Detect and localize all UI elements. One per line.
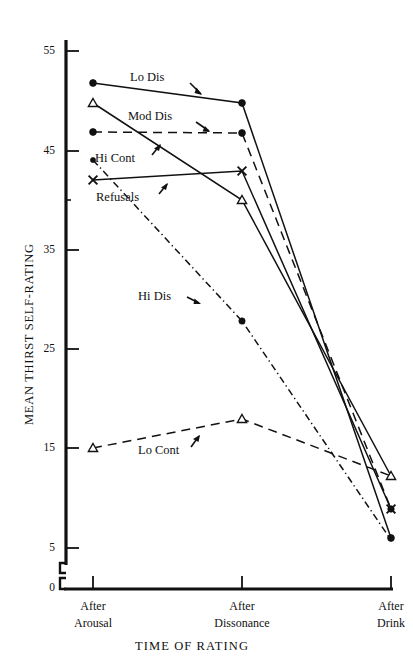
y-tick-label-15: 15 bbox=[30, 442, 55, 454]
series-label-lo-cont: Lo Cont bbox=[138, 444, 179, 457]
x-tick-label-after-arousal-line2: Arousal bbox=[43, 617, 143, 629]
y-axis-title: MEAN THIRST SELF-RATING bbox=[23, 243, 36, 425]
x-tick-label-after-dissonance-line2: Dissonance bbox=[192, 617, 292, 629]
y-tick-label-45: 45 bbox=[30, 145, 55, 157]
leader-hi-dis bbox=[187, 297, 201, 304]
series-label-hi-cont: Hi Cont bbox=[95, 152, 135, 165]
leader-refusals bbox=[159, 183, 168, 194]
series-line-lo-dis bbox=[93, 83, 391, 538]
x-tick-label-after-dissonance-line1: After bbox=[192, 600, 292, 612]
marker-lo-cont-p2 bbox=[237, 415, 246, 423]
x-tick-label-after-drink-line1: After bbox=[341, 600, 413, 612]
series-label-lo-dis: Lo Dis bbox=[130, 71, 164, 84]
chart-plot-area bbox=[0, 0, 413, 671]
marker-lo-dis-p1 bbox=[90, 80, 97, 87]
x-tick-label-after-drink-line2: Drink bbox=[341, 617, 413, 629]
y-tick-label-5: 5 bbox=[30, 542, 55, 554]
y-axis-break-lower bbox=[60, 578, 66, 589]
leader-lo-dis bbox=[190, 83, 202, 95]
leader-hi-cont bbox=[152, 144, 161, 155]
x-axis-title: TIME OF RATING bbox=[135, 640, 249, 653]
marker-hi-dis-p2 bbox=[239, 318, 245, 324]
leader-lo-cont bbox=[191, 435, 200, 447]
leader-mod-dis bbox=[196, 122, 210, 132]
marker-hi-cont-p1 bbox=[88, 99, 97, 107]
series-line-hi-dis bbox=[93, 160, 391, 540]
chart-figure: 55 45 35 25 15 5 0 MEAN THIRST SELF-RATI… bbox=[0, 0, 413, 671]
x-tick-label-after-arousal-line1: After bbox=[43, 600, 143, 612]
marker-hi-cont-p2 bbox=[237, 196, 246, 204]
series-label-mod-dis: Mod Dis bbox=[128, 110, 172, 123]
series-label-refusals: Refusals bbox=[96, 191, 139, 204]
marker-mod-dis-p2 bbox=[239, 130, 246, 137]
y-tick-label-55: 55 bbox=[30, 45, 55, 57]
marker-lo-dis-p2 bbox=[239, 100, 246, 107]
marker-mod-dis-p1 bbox=[90, 129, 97, 136]
series-label-hi-dis: Hi Dis bbox=[138, 290, 171, 303]
y-tick-label-0: 0 bbox=[30, 582, 55, 594]
